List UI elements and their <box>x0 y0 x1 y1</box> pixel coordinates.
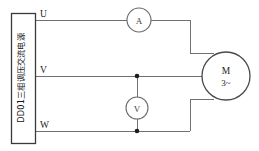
voltmeter-label: V <box>134 104 141 114</box>
ammeter-label: A <box>136 16 143 26</box>
motor-label: M <box>222 66 231 76</box>
motor-phase-label: 3~ <box>221 78 231 88</box>
terminal-label-v: V <box>40 65 47 75</box>
junction-dot-v-line <box>135 74 140 79</box>
junction-dot-w-line <box>135 129 140 134</box>
circuit-schematic: DD01三相调压交流电源 U V W A V M 3~ <box>0 0 259 151</box>
motor-symbol <box>202 52 250 100</box>
terminal-label-u: U <box>40 9 47 19</box>
terminal-label-w: W <box>40 120 49 130</box>
circuit-diagram-canvas: DD01三相调压交流电源 U V W A V M 3~ <box>0 0 259 151</box>
power-supply-label: DD01三相调压交流电源 <box>16 33 26 122</box>
